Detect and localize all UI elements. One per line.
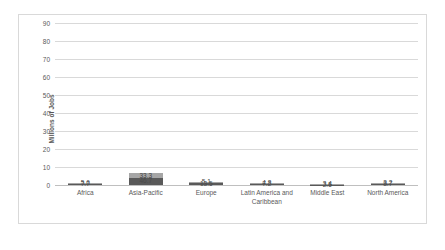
y-axis-tick-label: 40 xyxy=(43,110,50,117)
bar-value-label: 46.7 xyxy=(139,178,152,185)
bar-series-group: 5.67.733.346.75.113.54.87.23.42.53.28.7 xyxy=(55,23,418,185)
y-axis-tick-label: 90 xyxy=(43,20,50,27)
x-axis-label: Africa xyxy=(55,189,116,198)
bar-column: 4.87.2 xyxy=(237,23,298,185)
x-axis-label: Europe xyxy=(176,189,237,198)
plot-area: 0102030405060708090 5.67.733.346.75.113.… xyxy=(55,23,418,185)
chart-frame: Millions of Jobs 0102030405060708090 5.6… xyxy=(18,14,427,224)
bar-column: 5.113.5 xyxy=(176,23,237,185)
y-axis-title: Millions of Jobs xyxy=(48,94,55,143)
x-axis-category-labels: AfricaAsia-PacificEuropeLatin America an… xyxy=(55,185,418,221)
stacked-bar[interactable]: 3.42.5 xyxy=(310,172,344,185)
bar-column: 3.42.5 xyxy=(297,23,358,185)
x-axis-label: Middle East xyxy=(297,189,358,198)
y-axis-tick-label: 30 xyxy=(43,128,50,135)
x-axis-label: North America xyxy=(358,189,419,198)
y-axis-tick-label: 10 xyxy=(43,163,50,170)
y-axis-tick-label: 50 xyxy=(43,91,50,98)
y-axis-tick-label: 60 xyxy=(43,74,50,81)
stacked-bar[interactable]: 5.113.5 xyxy=(189,172,223,185)
plot-wrapper: 0102030405060708090 5.67.733.346.75.113.… xyxy=(55,23,418,185)
y-axis-tick-label: 80 xyxy=(43,37,50,44)
stacked-bar[interactable]: 33.346.7 xyxy=(129,172,163,185)
y-axis-tick-label: 0 xyxy=(46,182,50,189)
y-axis-tick-label: 20 xyxy=(43,146,50,153)
bar-segment-lower[interactable]: 46.7 xyxy=(129,178,163,185)
bar-column: 33.346.7 xyxy=(116,23,177,185)
stacked-bar[interactable]: 4.87.2 xyxy=(250,172,284,185)
x-axis-label: Asia-Pacific xyxy=(116,189,177,198)
y-axis-tick-label: 70 xyxy=(43,55,50,62)
stacked-bar[interactable]: 3.28.7 xyxy=(371,172,405,185)
bar-column: 5.67.7 xyxy=(55,23,116,185)
bar-column: 3.28.7 xyxy=(358,23,419,185)
stacked-bar[interactable]: 5.67.7 xyxy=(68,172,102,185)
x-axis-label: Latin America and Caribbean xyxy=(237,189,298,207)
